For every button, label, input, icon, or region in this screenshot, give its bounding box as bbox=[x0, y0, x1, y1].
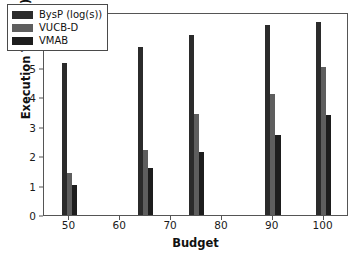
bar bbox=[199, 152, 204, 215]
x-axis-tick-label: 50 bbox=[62, 219, 75, 231]
y-axis-tick-label: 0 bbox=[0, 210, 43, 222]
y-axis-tick-mark bbox=[39, 68, 43, 69]
legend-swatch-icon bbox=[12, 24, 33, 32]
legend-item[interactable]: BysP (log(s)) bbox=[12, 8, 102, 21]
bar-chart-figure: 01234565060708090100 Execution Time (s) … bbox=[0, 0, 360, 261]
legend-item[interactable]: VMAB bbox=[12, 34, 102, 47]
chart-legend: BysP (log(s)) VUCB-D VMAB bbox=[7, 4, 108, 51]
legend-swatch-icon bbox=[12, 11, 33, 19]
x-axis-tick-mark bbox=[68, 216, 69, 220]
x-axis-tick-label: 70 bbox=[163, 219, 176, 231]
bar bbox=[326, 115, 331, 215]
legend-swatch-icon bbox=[12, 37, 33, 45]
y-axis-tick-mark bbox=[39, 157, 43, 158]
y-axis-tick-mark bbox=[39, 127, 43, 128]
y-axis-tick-mark bbox=[39, 216, 43, 217]
x-axis-tick-label: 90 bbox=[265, 219, 278, 231]
bar bbox=[72, 185, 77, 215]
y-axis-tick-label: 1 bbox=[0, 181, 43, 193]
x-axis-tick-label: 60 bbox=[113, 219, 126, 231]
x-axis-label: Budget bbox=[43, 236, 348, 250]
legend-item-label: VMAB bbox=[39, 35, 68, 46]
bar bbox=[148, 168, 153, 215]
y-axis-tick-mark bbox=[39, 98, 43, 99]
x-axis-tick-mark bbox=[221, 216, 222, 220]
y-axis-tick-label: 2 bbox=[0, 151, 43, 163]
x-axis-tick-mark bbox=[272, 216, 273, 220]
x-axis-tick-mark bbox=[170, 216, 171, 220]
legend-item[interactable]: VUCB-D bbox=[12, 21, 102, 34]
x-axis-tick-label: 100 bbox=[313, 219, 333, 231]
bar bbox=[275, 135, 280, 215]
y-axis-tick-mark bbox=[39, 186, 43, 187]
legend-item-label: BysP (log(s)) bbox=[39, 9, 102, 20]
x-axis-tick-label: 80 bbox=[214, 219, 227, 231]
legend-item-label: VUCB-D bbox=[39, 22, 78, 33]
x-axis-tick-mark bbox=[119, 216, 120, 220]
x-axis-tick-mark bbox=[323, 216, 324, 220]
